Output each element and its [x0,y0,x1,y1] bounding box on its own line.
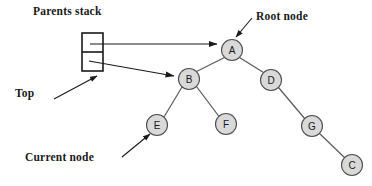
node-g-label: G [308,121,316,132]
current-node-label: Current node [25,151,94,163]
stack-cell-top[interactable] [83,34,102,51]
parents-stack-label: Parents stack [33,5,102,17]
node-d-label: D [267,75,274,86]
edge-a-b [197,58,225,72]
tree-nodes: A B D E F G C [147,40,363,176]
edge-d-g [279,88,306,120]
parents-stack-box[interactable] [82,33,103,71]
diagram-root: A B D E F G C [0,0,372,186]
edge-g-c [320,134,346,159]
node-a[interactable]: A [222,40,243,61]
edge-b-f [197,87,220,117]
node-e-label: E [154,120,161,131]
edge-b-e [164,87,182,117]
node-a-label: A [229,45,236,56]
node-d[interactable]: D [261,70,282,91]
node-c[interactable]: C [342,155,363,176]
pointer-top-label [54,76,97,99]
node-b[interactable]: B [179,69,200,90]
top-label: Top [15,87,34,99]
node-b-label: B [186,74,193,85]
edge-a-d [240,58,264,73]
root-node-label: Root node [256,10,308,22]
node-g[interactable]: G [302,116,323,137]
node-f[interactable]: F [216,114,237,135]
pointer-current-node-label [122,134,150,157]
node-e[interactable]: E [147,115,168,136]
pointer-root-node-label [236,18,252,37]
node-c-label: C [348,160,355,171]
node-f-label: F [223,119,229,130]
